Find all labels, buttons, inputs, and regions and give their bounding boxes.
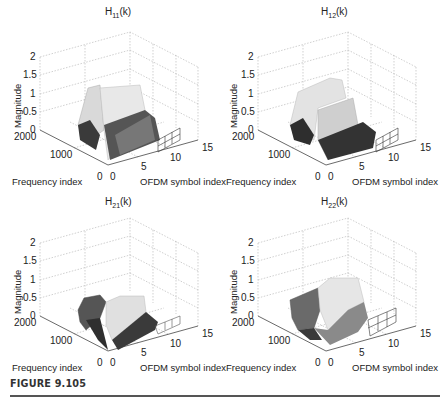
y-tick: 10 — [170, 339, 181, 349]
z-tick: 1.5 — [241, 70, 255, 80]
z-tick: 2 — [30, 238, 36, 248]
y-tick: 5 — [141, 348, 147, 358]
x-axis-label: Frequency index — [12, 362, 82, 373]
figure-caption: FIGURE 9.105 — [10, 377, 86, 390]
title-sub: 12 — [328, 12, 336, 19]
z-tick: 1 — [30, 275, 36, 285]
z-tick: 0.5 — [241, 293, 255, 303]
y-tick: 0 — [328, 172, 334, 182]
title-tail: (k) — [120, 6, 132, 17]
z-tick: 1.5 — [23, 70, 37, 80]
z-tick: 1.5 — [23, 256, 37, 266]
x-tick: 1000 — [50, 336, 72, 346]
z-tick: 1 — [248, 275, 254, 285]
y-tick: 5 — [359, 348, 365, 358]
y-tick: 0 — [110, 358, 116, 368]
y-tick: 0 — [110, 172, 116, 182]
x-axis-label: Frequency index — [12, 176, 82, 187]
y-tick: 15 — [420, 329, 431, 339]
subplot-h11: H11(k) Magnitude 2 1.5 1 0.5 0 2000 1000… — [0, 0, 224, 190]
y-tick: 10 — [170, 153, 181, 163]
y-tick: 0 — [328, 358, 334, 368]
surface-plot-h22 — [218, 190, 442, 380]
x-tick: 1000 — [268, 336, 290, 346]
x-tick: 2000 — [14, 132, 36, 142]
x-tick: 0 — [97, 358, 103, 368]
x-tick: 2000 — [14, 318, 36, 328]
y-axis-label: OFDM symbol index — [352, 362, 438, 373]
y-tick: 15 — [202, 143, 213, 153]
title-tail: (k) — [336, 196, 348, 207]
surface-plot-h21 — [0, 190, 224, 380]
x-axis-label: Frequency index — [226, 176, 296, 187]
z-tick: 1 — [30, 89, 36, 99]
y-axis-label: OFDM symbol index — [140, 362, 226, 373]
subplot-h12: H12(k) Magnitude 2 1.5 1 0.5 0 2000 1000… — [218, 0, 442, 190]
z-tick: 1.5 — [241, 256, 255, 266]
subplot-title: H12(k) — [321, 6, 348, 19]
z-axis-label: Magnitude — [12, 270, 23, 314]
title-tail: (k) — [120, 196, 132, 207]
y-axis-label: OFDM symbol index — [140, 176, 226, 187]
subplot-title: H21(k) — [105, 196, 132, 209]
y-tick: 15 — [420, 143, 431, 153]
z-tick: 0.5 — [241, 107, 255, 117]
y-tick: 10 — [388, 339, 399, 349]
z-tick: 2 — [248, 52, 254, 62]
z-axis-label: Magnitude — [228, 84, 239, 128]
subplot-h21: H21(k) Magnitude 2 1.5 1 0.5 0 2000 1000… — [0, 190, 224, 380]
subplot-title: H11(k) — [105, 6, 131, 19]
title-sub: 21 — [112, 202, 120, 209]
x-tick: 2000 — [232, 132, 254, 142]
title-sub: 22 — [328, 202, 336, 209]
z-tick: 2 — [30, 52, 36, 62]
x-tick: 0 — [315, 172, 321, 182]
x-tick: 2000 — [232, 318, 254, 328]
y-tick: 5 — [359, 162, 365, 172]
z-axis-label: Magnitude — [12, 84, 23, 128]
x-axis-label: Frequency index — [226, 362, 296, 373]
z-tick: 1 — [248, 89, 254, 99]
z-tick: 2 — [248, 238, 254, 248]
x-tick: 1000 — [268, 150, 290, 160]
subplot-title: H22(k) — [321, 196, 348, 209]
y-tick: 10 — [388, 153, 399, 163]
z-tick: 0.5 — [23, 293, 37, 303]
x-tick: 0 — [97, 172, 103, 182]
y-tick: 15 — [202, 329, 213, 339]
x-tick: 1000 — [50, 150, 72, 160]
z-axis-label: Magnitude — [228, 270, 239, 314]
title-sub: 11 — [112, 12, 119, 19]
y-axis-label: OFDM symbol index — [352, 176, 438, 187]
caption-divider — [10, 395, 440, 397]
title-tail: (k) — [336, 6, 348, 17]
x-tick: 0 — [315, 358, 321, 368]
z-tick: 0.5 — [23, 107, 37, 117]
subplot-h22: H22(k) Magnitude 2 1.5 1 0.5 0 2000 1000… — [218, 190, 442, 380]
y-tick: 5 — [141, 162, 147, 172]
